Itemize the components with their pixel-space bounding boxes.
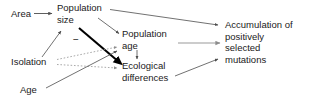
node-ecological-differences: Ecological differences [122, 60, 168, 83]
node-population-age: Population age [122, 28, 167, 51]
diagram-canvas: Area Population size Isolation Age Popul… [0, 0, 322, 101]
node-isolation: Isolation [11, 56, 46, 68]
edge-population-size-to-accumulation [110, 10, 218, 26]
edge-sign-minus: − [73, 35, 79, 45]
node-area: Area [11, 8, 31, 20]
edge-population-size-to-ecological-differences [79, 28, 119, 62]
edge-isolation-to-population-size [42, 31, 61, 57]
edge-ecological-differences-to-accumulation [175, 59, 218, 76]
node-age: Age [20, 84, 37, 96]
edge-age-to-population-age [46, 51, 117, 88]
node-accumulation: Accumulation of positively selected muta… [225, 19, 293, 65]
node-population-size: Population size [57, 2, 102, 25]
